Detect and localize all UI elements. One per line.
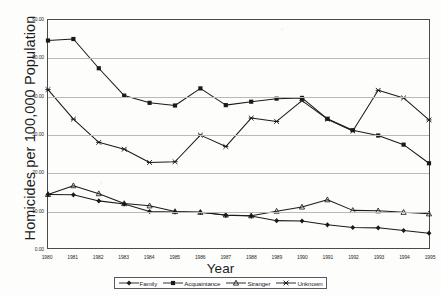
data-point-diamond: [71, 192, 76, 197]
data-point-cross: [96, 140, 101, 145]
legend-label: Acquaintance: [184, 280, 220, 287]
chart-legend: FamilyAcquaintanceStrangerUnknown: [114, 277, 328, 289]
legend-item-family[interactable]: Family: [119, 279, 158, 287]
data-point-square: [173, 103, 177, 107]
x-tick-label: 1983: [118, 254, 129, 260]
data-point-diamond: [401, 228, 406, 233]
series-lines: [48, 20, 429, 248]
series-line-family: [48, 194, 429, 233]
legend-label: Family: [140, 280, 158, 287]
data-point-diamond: [126, 280, 131, 285]
y-tick-label: 0.00: [14, 246, 44, 252]
legend-marker-triangle-icon: [226, 279, 246, 287]
data-point-cross: [147, 160, 152, 165]
x-tick-label: 1985: [169, 254, 180, 260]
data-point-cross: [172, 159, 177, 164]
data-point-square: [171, 281, 175, 285]
gridline: [48, 212, 429, 213]
data-point-square: [427, 161, 431, 165]
x-tick-label: 1986: [195, 254, 206, 260]
gridline: [48, 135, 429, 136]
data-point-cross: [426, 118, 431, 123]
data-point-cross: [45, 87, 50, 92]
plot-area: [47, 19, 430, 249]
gridline: [48, 173, 429, 174]
gridline: [48, 97, 429, 98]
legend-item-unknown[interactable]: Unknown: [276, 279, 322, 287]
y-tick-label: 10.00: [14, 208, 44, 214]
x-tick-label: 1988: [246, 254, 257, 260]
x-tick-label: 1981: [67, 254, 78, 260]
data-point-cross: [122, 147, 127, 152]
x-tick-label: 1987: [220, 254, 231, 260]
data-point-square: [402, 143, 406, 147]
y-tick-label: 30.00: [14, 131, 44, 137]
legend-label: Unknown: [297, 280, 322, 287]
legend-item-acquaintance[interactable]: Acquaintance: [163, 279, 220, 287]
y-tick-label: 60.00: [14, 16, 44, 22]
legend-marker-cross-icon: [276, 279, 296, 287]
data-point-square: [97, 66, 101, 70]
data-point-diamond: [427, 231, 432, 236]
data-point-square: [71, 37, 75, 41]
gridline: [48, 58, 429, 59]
data-point-cross: [249, 116, 254, 121]
legend-item-stranger[interactable]: Stranger: [226, 279, 270, 287]
data-point-square: [198, 86, 202, 90]
data-point-cross: [274, 119, 279, 124]
data-point-square: [148, 101, 152, 105]
data-point-cross: [71, 117, 76, 122]
y-tick-label: 40.00: [14, 93, 44, 99]
x-tick-label: 1989: [272, 254, 283, 260]
data-point-diamond: [96, 198, 101, 203]
data-point-diamond: [300, 218, 305, 223]
data-point-diamond: [350, 225, 355, 230]
data-point-diamond: [325, 222, 330, 227]
x-tick-label: 1994: [399, 254, 410, 260]
data-point-square: [249, 100, 253, 104]
data-point-diamond: [274, 218, 279, 223]
series-line-unknown: [48, 90, 429, 163]
x-tick-label: 1980: [42, 254, 53, 260]
x-axis-title: Year: [0, 261, 441, 276]
data-point-cross: [223, 144, 228, 149]
y-axis-tick-labels: 60.0050.0040.0030.0020.0010.000.00: [10, 0, 44, 295]
legend-marker-square-icon: [163, 279, 183, 287]
data-point-square: [46, 38, 50, 42]
x-tick-label: 1991: [323, 254, 334, 260]
x-tick-label: 1984: [144, 254, 155, 260]
homicide-rate-line-chart: Homicides per 100,000 Population 60.0050…: [0, 0, 441, 295]
legend-marker-diamond-icon: [119, 279, 139, 287]
x-tick-label: 1993: [374, 254, 385, 260]
data-point-square: [224, 103, 228, 107]
x-tick-label: 1982: [93, 254, 104, 260]
x-tick-label: 1992: [348, 254, 359, 260]
x-tick-label: 1990: [297, 254, 308, 260]
data-point-cross: [284, 281, 289, 286]
x-tick-label: 1995: [425, 254, 436, 260]
legend-label: Stranger: [247, 280, 270, 287]
data-point-diamond: [376, 225, 381, 230]
y-tick-label: 50.00: [14, 54, 44, 60]
y-tick-label: 20.00: [14, 169, 44, 175]
data-point-cross: [376, 88, 381, 93]
